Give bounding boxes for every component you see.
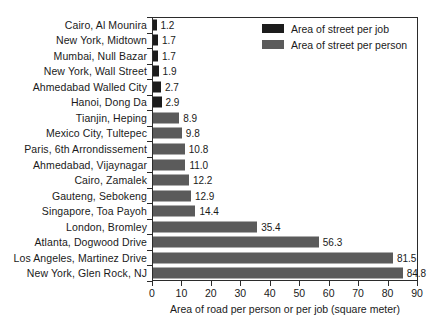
- y-axis-tick: [147, 110, 153, 111]
- bar-row: Gauteng, Sebokeng12.9: [0, 188, 418, 204]
- x-axis-tick-label: 50: [293, 287, 305, 299]
- bar-value-label: 2.7: [165, 81, 179, 92]
- y-axis-tick: [147, 203, 153, 204]
- x-axis-tick: [181, 281, 182, 286]
- chart-legend: Area of street per job Area of street pe…: [262, 22, 407, 54]
- category-label: Cairo, Al Mounira: [65, 19, 147, 31]
- x-axis-tick: [299, 281, 300, 286]
- x-axis-tick-label: 60: [323, 287, 335, 299]
- y-axis-tick: [147, 33, 153, 34]
- y-axis-tick: [147, 141, 153, 142]
- y-axis-tick: [147, 265, 153, 266]
- y-axis-tick: [147, 17, 153, 18]
- bar-row: Ahmedabad, Vijaynagar11.0: [0, 157, 418, 173]
- bar-value-label: 56.3: [323, 237, 342, 248]
- bar-row: Mexico City, Tultepec9.8: [0, 126, 418, 142]
- category-label: Los Angeles, Martinez Drive: [14, 252, 147, 264]
- bar: [153, 81, 161, 92]
- y-axis-tick: [147, 172, 153, 173]
- bar-row: Los Angeles, Martinez Drive81.5: [0, 250, 418, 266]
- x-axis-tick: [358, 281, 359, 286]
- bar: [153, 50, 158, 61]
- category-label: New York, Glen Rock, NJ: [27, 267, 147, 279]
- category-label: New York, Midtown: [56, 34, 147, 46]
- legend-swatch-person: [262, 40, 284, 49]
- category-label: Ahmedabad, Vijaynagar: [33, 159, 147, 171]
- x-axis-tick-label: 30: [234, 287, 246, 299]
- y-axis-tick: [147, 48, 153, 49]
- y-axis-tick: [147, 250, 153, 251]
- x-axis-tick-label: 20: [205, 287, 217, 299]
- legend-label-person: Area of street per person: [291, 39, 407, 51]
- y-axis-tick: [147, 95, 153, 96]
- bar: [153, 206, 195, 217]
- bar-value-label: 2.9: [166, 97, 180, 108]
- y-axis-tick: [147, 188, 153, 189]
- bar-chart: Cairo, Al Mounira1.2New York, Midtown1.7…: [0, 0, 433, 327]
- bar: [153, 175, 189, 186]
- bar: [153, 237, 319, 248]
- bar-value-label: 1.7: [162, 50, 176, 61]
- bar-row: Paris, 6th Arrondissement10.8: [0, 141, 418, 157]
- bar-row: Hanoi, Dong Da2.9: [0, 95, 418, 111]
- category-label: Paris, 6th Arrondissement: [24, 143, 147, 155]
- category-label: London, Bromley: [66, 221, 147, 233]
- bar-value-label: 14.4: [199, 206, 218, 217]
- x-axis-title: Area of road per person or per job (squa…: [152, 303, 418, 315]
- bar: [153, 252, 393, 263]
- category-label: New York, Wall Street: [44, 65, 147, 77]
- bar: [153, 112, 179, 123]
- category-label: Hanoi, Dong Da: [71, 96, 147, 108]
- legend-item-job: Area of street per job: [262, 22, 407, 35]
- bar-value-label: 11.0: [189, 159, 208, 170]
- bar: [153, 143, 185, 154]
- bar-row: New York, Wall Street1.9: [0, 64, 418, 80]
- y-axis-tick: [147, 64, 153, 65]
- y-axis-tick: [147, 79, 153, 80]
- bar-value-label: 1.9: [163, 66, 177, 77]
- bar: [153, 97, 162, 108]
- x-axis-tick: [388, 281, 389, 286]
- x-axis-tick: [329, 281, 330, 286]
- bar-value-label: 12.9: [195, 190, 214, 201]
- bar: [153, 66, 159, 77]
- bar-value-label: 12.2: [193, 175, 212, 186]
- x-axis-tick-label: 70: [352, 287, 364, 299]
- bar: [153, 268, 403, 279]
- bar-row: Ahmedabad Walled City2.7: [0, 79, 418, 95]
- y-axis-tick: [147, 234, 153, 235]
- x-axis-tick: [417, 281, 418, 286]
- bar-row: Cairo, Zamalek12.2: [0, 172, 418, 188]
- bar-value-label: 35.4: [261, 221, 280, 232]
- category-label: Mexico City, Tultepec: [46, 127, 147, 139]
- bar-row: New York, Glen Rock, NJ84.8: [0, 265, 418, 281]
- y-axis-tick: [147, 126, 153, 127]
- bar: [153, 35, 158, 46]
- bar: [153, 190, 191, 201]
- bar: [153, 19, 157, 30]
- bar-value-label: 8.9: [183, 112, 197, 123]
- bar: [153, 128, 182, 139]
- bar-row: Atlanta, Dogwood Drive56.3: [0, 234, 418, 250]
- category-label: Cairo, Zamalek: [74, 174, 147, 186]
- bar-value-label: 1.2: [161, 19, 175, 30]
- x-axis-tick: [270, 281, 271, 286]
- category-label: Singapore, Toa Payoh: [42, 205, 147, 217]
- bar-rows-container: Cairo, Al Mounira1.2New York, Midtown1.7…: [0, 17, 418, 281]
- bar-value-label: 81.5: [397, 252, 416, 263]
- x-axis-tick-label: 10: [176, 287, 188, 299]
- y-axis-tick: [147, 281, 153, 282]
- category-label: Atlanta, Dogwood Drive: [34, 236, 147, 248]
- bar-row: Tianjin, Heping8.9: [0, 110, 418, 126]
- x-axis-tick-label: 80: [382, 287, 394, 299]
- bar-row: Singapore, Toa Payoh14.4: [0, 203, 418, 219]
- x-axis-tick: [211, 281, 212, 286]
- legend-label-job: Area of street per job: [291, 23, 389, 35]
- bar-value-label: 9.8: [186, 128, 200, 139]
- bar-value-label: 1.7: [162, 35, 176, 46]
- x-axis-tick-label: 90: [411, 287, 423, 299]
- x-axis-tick-label: 0: [149, 287, 155, 299]
- category-label: Tianjin, Heping: [76, 112, 147, 124]
- category-label: Mumbai, Null Bazar: [54, 50, 147, 62]
- category-label: Ahmedabad Walled City: [33, 81, 147, 93]
